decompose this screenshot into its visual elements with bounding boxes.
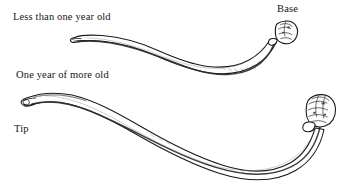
lower-specimen-lower-edge-shading xyxy=(32,102,322,174)
upper-specimen-base-knob xyxy=(269,21,298,45)
upper-specimen-age-label: Less than one year old xyxy=(13,11,111,22)
tip-label: Tip xyxy=(14,123,29,134)
base-label: Base xyxy=(277,3,298,14)
lower-specimen-age-label: One year of more old xyxy=(16,69,109,80)
lower-specimen-shaft xyxy=(21,93,324,179)
upper-specimen-drawing xyxy=(70,21,297,74)
lower-specimen-drawing xyxy=(21,93,335,179)
lower-specimen-base-knob xyxy=(303,95,336,132)
specimen-figure-canvas xyxy=(0,0,348,186)
